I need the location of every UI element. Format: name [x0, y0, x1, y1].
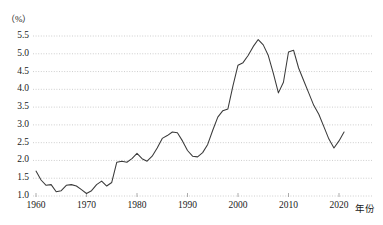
- x-axis-tick-marks: [36, 193, 339, 197]
- line-chart: （%） 1.01.52.02.53.03.54.04.55.05.5 19601…: [0, 0, 383, 225]
- data-line-group: [36, 40, 344, 194]
- gridlines: [33, 36, 372, 196]
- plot-area: [0, 0, 383, 225]
- data-line: [36, 40, 344, 194]
